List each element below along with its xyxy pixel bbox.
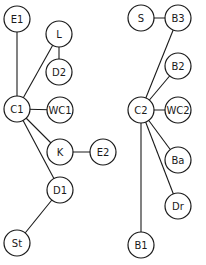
node-label: St: [12, 238, 22, 249]
node-wc2: WC2: [165, 97, 191, 123]
node-st: St: [4, 230, 30, 256]
node-e1: E1: [4, 6, 30, 32]
node-c1: C1: [4, 96, 30, 122]
node-c2: C2: [128, 97, 154, 123]
node-label: D2: [52, 67, 66, 78]
node-label: Ba: [172, 155, 185, 166]
edges-layer: [17, 18, 178, 245]
node-label: C1: [10, 104, 23, 115]
node-wc1: WC1: [47, 97, 73, 123]
node-label: K: [57, 147, 64, 158]
node-b3: B3: [165, 5, 191, 31]
node-label: L: [56, 29, 62, 40]
node-d2: D2: [46, 59, 72, 85]
node-k: K: [47, 139, 73, 165]
node-label: Dr: [172, 201, 185, 212]
node-d1: D1: [47, 177, 73, 203]
node-b1: B1: [128, 232, 154, 258]
node-e2: E2: [90, 139, 116, 165]
node-label: B2: [171, 61, 184, 72]
node-label: D1: [53, 185, 67, 196]
node-s: S: [128, 5, 154, 31]
nodes-layer: E1LD2C1WC1KE2D1StSB3B2C2WC2BaDrB1: [4, 5, 191, 258]
node-b2: B2: [165, 53, 191, 79]
node-label: B3: [171, 13, 184, 24]
node-l: L: [46, 21, 72, 47]
node-label: WC2: [166, 105, 189, 116]
node-ba: Ba: [165, 147, 191, 173]
node-label: S: [138, 13, 144, 24]
node-label: B1: [134, 240, 147, 251]
graph-diagram: E1LD2C1WC1KE2D1StSB3B2C2WC2BaDrB1: [0, 0, 206, 265]
node-dr: Dr: [165, 193, 191, 219]
node-label: C2: [134, 105, 147, 116]
node-label: WC1: [48, 105, 71, 116]
node-label: E2: [97, 147, 110, 158]
node-label: E1: [11, 14, 24, 25]
